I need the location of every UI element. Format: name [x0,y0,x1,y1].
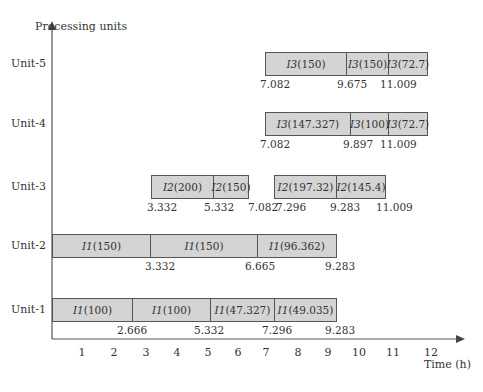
time-annotation: 3.332 [147,201,177,213]
time-annotation: 7.296 [262,324,292,336]
x-tick-label: 11 [383,346,403,359]
task-bar: I1 (100) [132,298,211,322]
task-bar: I3 (150) [265,52,347,76]
x-tick-label: 12 [421,346,441,359]
task-bar: I3 (72.7) [388,112,428,136]
time-annotation: 9.283 [325,260,355,272]
task-bar: I1 (47.327) [210,298,275,322]
task-bar: I3 (72.7) [388,52,428,76]
x-tick-label: 9 [318,346,338,359]
time-annotation: 9.283 [330,201,360,213]
unit-label: Unit-2 [0,239,46,252]
task-bar: I3 (150) [346,52,389,76]
task-bar: I2 (145.4) [336,175,386,199]
time-annotation: 5.332 [204,201,234,213]
x-tick-label: 10 [349,346,369,359]
x-tick-label: 7 [256,346,276,359]
x-tick-label: 5 [198,346,218,359]
x-tick-label: 3 [136,346,156,359]
x-tick-label: 4 [167,346,187,359]
task-bar: I1 (150) [52,234,151,258]
task-bar: I2 (197.32) [274,175,337,199]
time-annotation: 7.082 [260,78,290,90]
x-tick-label: 2 [104,346,124,359]
task-bar: I1 (150) [150,234,258,258]
task-bar: I2 (150) [213,175,249,199]
task-bar: I1 (96.362) [257,234,337,258]
task-bar: I1 (100) [52,298,133,322]
time-annotation: 2.666 [117,324,147,336]
task-bar: I2 (200) [151,175,214,199]
unit-label: Unit-5 [0,57,46,70]
gantt-chart: Processing units Time (h) Unit-5I3 (150)… [0,0,483,392]
task-bar: I1 (49.035) [274,298,337,322]
time-annotation: 6.665 [245,260,275,272]
time-annotation: 3.332 [145,260,175,272]
time-annotation: 11.009 [376,201,413,213]
time-annotation: 5.332 [194,324,224,336]
x-axis-title: Time (h) [424,358,471,371]
x-tick-label: 1 [72,346,92,359]
time-annotation: 7.296 [276,201,306,213]
time-annotation: 11.009 [380,78,417,90]
unit-label: Unit-1 [0,303,46,316]
task-bar: I3 (100) [350,112,389,136]
time-annotation: 7.082 [260,138,290,150]
unit-label: Unit-4 [0,117,46,130]
x-axis-arrow-icon [456,335,465,343]
y-axis-title: Processing units [35,20,127,33]
time-annotation: 9.283 [325,324,355,336]
x-tick-label: 8 [288,346,308,359]
x-tick-label: 6 [228,346,248,359]
time-annotation: 7.082 [248,201,278,213]
unit-label: Unit-3 [0,180,46,193]
time-annotation: 9.897 [343,138,373,150]
task-bar: I3 (147.327) [265,112,351,136]
time-annotation: 11.009 [380,138,417,150]
time-annotation: 9.675 [337,78,367,90]
